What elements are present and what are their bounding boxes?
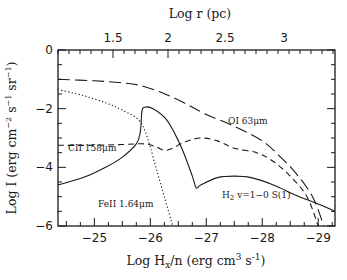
top-tick-label: 3 <box>280 31 288 45</box>
top-tick-label: 2.5 <box>215 31 234 45</box>
y-tick-label: 0 <box>45 43 53 57</box>
curve-label: H2 v=1−0 S(1) <box>222 190 291 202</box>
series-solid <box>58 107 335 211</box>
x-axis-title: Log Hx/n (erg cm3 s-1) <box>127 252 266 270</box>
x-tick-label: −28 <box>250 231 275 245</box>
x-tick-label: −25 <box>82 231 107 245</box>
top-axis-title: Log r (pc) <box>169 6 232 21</box>
y-axis-title: Log I (erg cm−2 s−1 sr−1) <box>4 62 19 215</box>
x-tick-label: −29 <box>306 231 331 245</box>
chart: −25−26−27−28−290−2−4−61.522.53 Log r (pc… <box>0 0 347 280</box>
x-tick-label: −26 <box>138 231 163 245</box>
curve-label: CII 158μm <box>68 143 117 153</box>
curve-label: OI 63μm <box>228 116 268 126</box>
top-tick-label: 1.5 <box>103 31 122 45</box>
x-tick-label: −27 <box>194 231 219 245</box>
y-tick-label: −6 <box>35 219 53 233</box>
axis-ticks: −25−26−27−28−290−2−4−61.522.53 <box>35 31 335 245</box>
y-tick-label: −4 <box>35 160 53 174</box>
y-tick-label: −2 <box>35 102 53 116</box>
top-tick-label: 2 <box>164 31 172 45</box>
curve-annotations: OI 63μmCII 158μmFeII 1.64μmH2 v=1−0 S(1) <box>68 116 291 209</box>
curve-label: FeII 1.64μm <box>98 199 154 209</box>
